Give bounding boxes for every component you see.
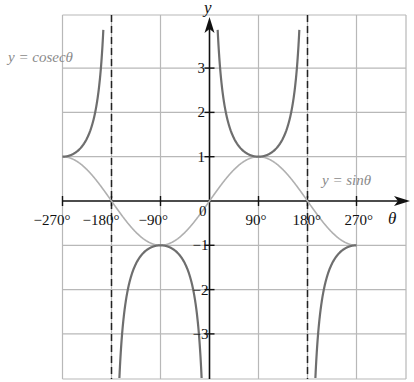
y-tick-label: 1	[198, 149, 206, 165]
y-tick-label: −3	[193, 326, 209, 342]
cosec-curve-label: y = cosecθ	[6, 49, 74, 65]
cosec-curve-branch	[315, 245, 356, 378]
x-axis-label: θ	[388, 209, 396, 228]
y-axis-label: y	[202, 0, 212, 17]
origin-label: 0	[199, 203, 207, 219]
sin-label-text: y = sinθ	[320, 172, 372, 188]
x-tick-label: 270°	[345, 212, 374, 228]
x-tick-label: 180°	[293, 212, 322, 228]
y-tick-label: 2	[198, 104, 206, 120]
sin-curve-label: y = sinθ	[320, 172, 372, 188]
x-tick-label: −270°	[34, 212, 71, 228]
x-tick-label: −90°	[139, 212, 168, 228]
y-tick-label: −1	[193, 237, 209, 253]
y-tick-label: −2	[193, 282, 209, 298]
x-tick-label: −180°	[83, 212, 120, 228]
trig-graph: −270°−180°−90°90°180°270°321−1−2−3 y θ 0…	[0, 0, 414, 382]
cosec-label-text: y = cosecθ	[6, 49, 74, 65]
x-tick-label: 90°	[246, 212, 267, 228]
y-tick-label: 3	[198, 60, 206, 76]
axes	[63, 17, 411, 379]
grid-lines	[63, 15, 407, 379]
